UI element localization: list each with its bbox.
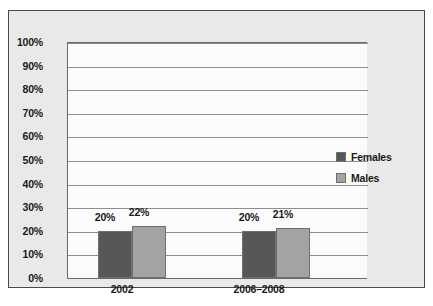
y-axis-tick-label-30: 30% — [0, 201, 43, 213]
gridline-40 — [68, 185, 368, 186]
chart-legend: Females Males — [336, 148, 392, 190]
legend-label-females: Females — [351, 151, 392, 163]
y-axis-tick-label-60: 60% — [0, 130, 43, 142]
y-axis-tick-label-10: 10% — [0, 248, 43, 260]
y-axis-tick-label-50: 50% — [0, 154, 43, 166]
bar-males-2006-2008[interactable] — [276, 228, 310, 278]
gridline-30 — [68, 208, 368, 209]
bar-males-2002[interactable] — [132, 226, 166, 278]
y-axis-tick-label-90: 90% — [0, 60, 43, 72]
gridline-50 — [68, 161, 368, 162]
y-axis-tick-label-20: 20% — [0, 225, 43, 237]
x-axis-tick-label-2002: 2002 — [80, 283, 164, 295]
gridline-90 — [68, 67, 368, 68]
y-axis-tick-label-70: 70% — [0, 107, 43, 119]
legend-item-males[interactable]: Males — [336, 169, 392, 186]
y-axis-tick-label-40: 40% — [0, 178, 43, 190]
gridline-100 — [68, 43, 368, 44]
gridline-80 — [68, 90, 368, 91]
legend-swatch-males-icon — [336, 173, 346, 183]
value-label-males-2002: 22% — [114, 206, 164, 218]
bar-females-2002[interactable] — [98, 231, 132, 278]
chart-figure: 100% 90% 80% 70% 60% 50% 40% 30% 20% 10%… — [0, 0, 433, 306]
x-axis-tick-label-2006-2008: 2006–2008 — [214, 283, 304, 295]
chart-panel: 100% 90% 80% 70% 60% 50% 40% 30% 20% 10%… — [8, 10, 425, 288]
gridline-60 — [68, 137, 368, 138]
legend-label-males: Males — [351, 172, 379, 184]
plot-area — [67, 42, 367, 279]
y-axis-tick-label-80: 80% — [0, 83, 43, 95]
bar-females-2006-2008[interactable] — [242, 231, 276, 278]
y-axis-tick-label-0: 0% — [0, 272, 43, 284]
gridline-70 — [68, 114, 368, 115]
value-label-males-2006-2008: 21% — [258, 208, 308, 220]
legend-item-females[interactable]: Females — [336, 148, 392, 165]
y-axis-tick-label-100: 100% — [0, 36, 43, 48]
legend-swatch-females-icon — [336, 152, 346, 162]
